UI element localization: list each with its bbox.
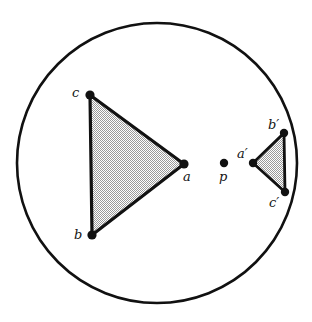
label-p: p [219,170,227,183]
vertex-dot-p [220,159,228,167]
label-a: a [183,170,191,183]
label-a-prime: a′ [237,147,248,160]
label-c: c [72,86,79,99]
label-b: b [74,228,82,241]
label-c-prime: c′ [269,196,279,209]
vertex-dot-c-prime [281,188,289,196]
vertex-dot-c [85,90,94,99]
figure-canvas [0,0,312,322]
triangle-abc-prime-shape [253,133,285,192]
vertex-dot-b-prime [280,129,288,137]
vertex-dot-a [179,159,188,168]
geometry-figure: abca′b′c′p [0,0,312,322]
vertex-dot-a-prime [249,159,257,167]
label-b-prime: b′ [268,118,279,131]
vertex-dot-b [87,230,96,239]
triangle-abc-shape [90,95,184,235]
